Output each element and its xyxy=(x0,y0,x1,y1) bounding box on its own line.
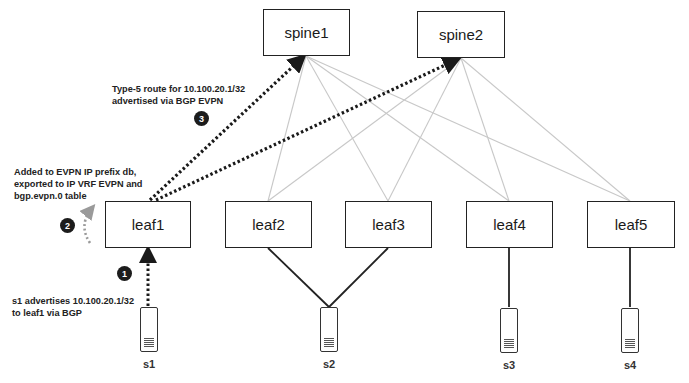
leaf5-label: leaf5 xyxy=(615,216,648,233)
server-vents xyxy=(625,339,635,348)
leaf2-node[interactable]: leaf2 xyxy=(225,201,312,248)
server-links xyxy=(268,248,630,307)
leaf4-label: leaf4 xyxy=(493,216,526,233)
leaf4-node[interactable]: leaf4 xyxy=(466,201,553,248)
spine2-label: spine2 xyxy=(439,26,483,43)
step2-note: Added to EVPN IP prefix db, exported to … xyxy=(14,166,142,202)
link-leaf2-s2 xyxy=(268,248,329,307)
link-leaf3-s2 xyxy=(329,248,388,307)
server-s1-label: s1 xyxy=(134,358,164,370)
leaf1-label: leaf1 xyxy=(132,216,165,233)
local-import-arrow xyxy=(84,208,92,243)
spine2-node[interactable]: spine2 xyxy=(417,11,505,58)
link-spine2-leaf5 xyxy=(461,58,630,201)
step1-badge: 1 xyxy=(117,266,132,281)
server-vents xyxy=(504,339,514,348)
leaf3-label: leaf3 xyxy=(372,216,405,233)
fabric-links xyxy=(268,56,630,201)
spine1-label: spine1 xyxy=(284,24,328,41)
leaf1-node[interactable]: leaf1 xyxy=(105,201,191,248)
link-spine2-leaf4 xyxy=(461,58,509,201)
server-s2-icon[interactable] xyxy=(320,307,338,352)
server-s4-label: s4 xyxy=(615,359,645,371)
server-vents xyxy=(324,338,334,347)
route-arrow-leaf1-to-spine1 xyxy=(150,58,302,200)
step3-note-line2: advertised via BGP EVPN xyxy=(112,95,245,107)
spine1-node[interactable]: spine1 xyxy=(263,9,350,56)
evpn-type5-diagram: spine1 spine2 leaf1 leaf2 leaf3 leaf4 le… xyxy=(0,0,689,383)
step2-note-line1: Added to EVPN IP prefix db, xyxy=(14,166,142,178)
server-s3-icon[interactable] xyxy=(500,308,518,353)
step1-note: s1 advertises 10.100.20.1/32 to leaf1 vi… xyxy=(12,295,134,319)
link-spine2-leaf2 xyxy=(268,58,461,201)
route-arrow-leaf1-to-spine2 xyxy=(156,60,456,200)
link-spine1-leaf2 xyxy=(268,56,306,201)
server-vents xyxy=(144,338,154,347)
server-s3-label: s3 xyxy=(494,359,524,371)
step2-note-line2: exported to IP VRF EVPN and xyxy=(14,178,142,190)
leaf5-node[interactable]: leaf5 xyxy=(587,201,675,248)
step3-note: Type-5 route for 10.100.20.1/32 advertis… xyxy=(112,83,245,107)
step2-badge: 2 xyxy=(60,218,75,233)
step3-badge: 3 xyxy=(194,111,209,126)
link-spine1-leaf3 xyxy=(306,56,388,201)
link-spine1-leaf4 xyxy=(306,56,509,201)
server-s2-label: s2 xyxy=(314,358,344,370)
step2-note-line3: bgp.evpn.0 table xyxy=(14,190,142,202)
server-s1-icon[interactable] xyxy=(140,307,158,352)
leaf2-label: leaf2 xyxy=(252,216,285,233)
leaf3-node[interactable]: leaf3 xyxy=(345,201,432,248)
step1-note-line1: s1 advertises 10.100.20.1/32 xyxy=(12,295,134,307)
step1-note-line2: to leaf1 via BGP xyxy=(12,307,134,319)
step3-note-line1: Type-5 route for 10.100.20.1/32 xyxy=(112,83,245,95)
link-spine2-leaf3 xyxy=(388,58,461,201)
server-s4-icon[interactable] xyxy=(621,308,639,353)
